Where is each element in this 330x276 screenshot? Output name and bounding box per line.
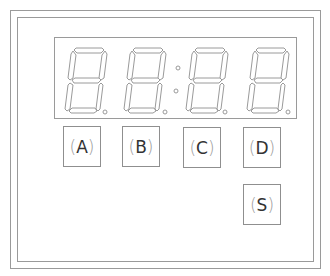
- paren-open: (: [70, 137, 77, 157]
- digit-2: [124, 48, 166, 113]
- button-c[interactable]: (C): [183, 127, 221, 168]
- button-b[interactable]: (B): [122, 126, 160, 167]
- decimal-point-3: [223, 110, 227, 114]
- button-d[interactable]: (D): [243, 127, 281, 168]
- colon-dot-top: [176, 66, 180, 70]
- button-a[interactable]: (A): [63, 126, 101, 167]
- paren-close: ): [269, 138, 276, 158]
- paren-open: (: [250, 195, 257, 215]
- button-a-label: A: [76, 137, 88, 157]
- paren-close: ): [208, 138, 215, 158]
- colon-dot-bottom: [174, 89, 178, 93]
- paren-open: (: [129, 137, 136, 157]
- paren-open: (: [249, 138, 256, 158]
- button-s-label: S: [257, 195, 268, 215]
- seven-segment-display: [54, 37, 297, 119]
- paren-close: ): [267, 195, 274, 215]
- paren-close: ): [147, 137, 154, 157]
- button-d-label: D: [255, 138, 268, 158]
- paren-close: ): [88, 137, 95, 157]
- digit-3: [186, 48, 228, 113]
- decimal-point-2: [163, 110, 167, 114]
- paren-open: (: [189, 138, 196, 158]
- digit-4: [247, 48, 289, 113]
- button-b-label: B: [135, 137, 147, 157]
- button-c-label: C: [196, 138, 208, 158]
- button-s[interactable]: (S): [243, 184, 281, 225]
- digit-1: [65, 48, 107, 113]
- decimal-point-4: [286, 110, 290, 114]
- decimal-point-1: [103, 110, 107, 114]
